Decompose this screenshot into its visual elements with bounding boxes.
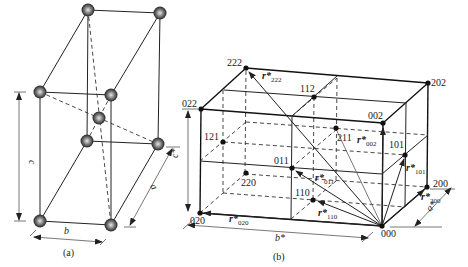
dimension-a: a bbox=[124, 147, 180, 227]
caption-a: (a) bbox=[63, 247, 74, 259]
label-r101: r*101 bbox=[406, 162, 426, 176]
label-110: 110 bbox=[295, 187, 310, 198]
lattice-point-121 bbox=[220, 139, 225, 144]
lattice-point-211 bbox=[333, 125, 338, 130]
lattice-point-112 bbox=[311, 94, 316, 99]
dimension-label-a: a bbox=[148, 182, 160, 192]
atom bbox=[34, 86, 47, 99]
atom bbox=[154, 7, 167, 20]
label-r110: r*110 bbox=[318, 207, 338, 221]
dimension-label-b: b bbox=[64, 225, 69, 236]
lattice-point-110 bbox=[310, 197, 315, 202]
lattice-point-202 bbox=[425, 80, 430, 85]
axis-label-c-star: c* bbox=[169, 149, 180, 158]
label-011: 011 bbox=[274, 155, 289, 166]
dimension-b-star: b* bbox=[183, 219, 373, 243]
label-222: 222 bbox=[227, 57, 242, 68]
label-022: 022 bbox=[182, 98, 197, 109]
lattice-point-200 bbox=[424, 184, 429, 189]
atom bbox=[105, 219, 118, 232]
label-r222: r*222 bbox=[262, 70, 282, 84]
label-121: 121 bbox=[204, 131, 219, 142]
dimension-c: c bbox=[14, 92, 38, 221]
label-000: 000 bbox=[381, 228, 396, 239]
lattice-point-101 bbox=[402, 152, 407, 157]
label-r011: r*011 bbox=[315, 172, 335, 186]
atom bbox=[34, 215, 47, 228]
atom-center bbox=[93, 112, 106, 125]
dimension-b: b bbox=[30, 225, 106, 245]
label-r002: r*002 bbox=[357, 134, 377, 148]
unit-cell-diagram-a: c b a (a) bbox=[14, 4, 180, 260]
label-002: 002 bbox=[368, 110, 383, 121]
lattice-point-220 bbox=[243, 170, 248, 175]
lattice-point-002 bbox=[380, 120, 385, 125]
lattice-point-222 bbox=[243, 65, 248, 70]
label-101: 101 bbox=[389, 139, 404, 150]
axis-label-b-star: b* bbox=[275, 232, 285, 243]
atom bbox=[152, 138, 165, 151]
vector-labels: r*222 r*002 r*101 r*011 r*110 r*020 r*20… bbox=[229, 70, 441, 227]
atom bbox=[105, 89, 118, 102]
label-220: 220 bbox=[241, 177, 256, 188]
dimension-c-star: c* bbox=[169, 111, 188, 211]
label-211: 211 bbox=[337, 132, 352, 143]
label-200: 200 bbox=[433, 178, 448, 189]
reciprocal-lattice-diagram-b: 222 202 112 022 002 121 211 101 011 220 … bbox=[169, 57, 455, 263]
lattice-point-022 bbox=[198, 106, 203, 111]
lattice-point-011 bbox=[289, 165, 294, 170]
atom bbox=[81, 135, 94, 148]
label-112: 112 bbox=[300, 83, 315, 94]
dimension-label-c: c bbox=[27, 160, 38, 165]
crystal-lattice-figure: c b a (a) bbox=[0, 0, 468, 267]
label-202: 202 bbox=[431, 77, 446, 88]
caption-b: (b) bbox=[273, 251, 285, 263]
atom bbox=[82, 4, 95, 17]
